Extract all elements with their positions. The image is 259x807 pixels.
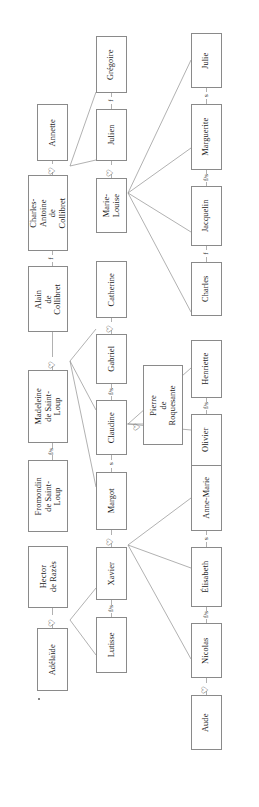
marriage-symbol-alain-madeleine: ♡ — [48, 355, 58, 369]
person-label: Charles — [202, 276, 212, 302]
person-label: Jacquelin — [202, 200, 212, 233]
person-label: Marie- Louise — [102, 194, 121, 217]
person-node-nicolas[interactable]: Nicolas — [191, 623, 222, 678]
person-label: Anne-Marie — [202, 477, 212, 519]
person-node-hector-de-razes[interactable]: Hector de Razès — [28, 546, 68, 608]
person-label: Gabriel — [107, 346, 117, 372]
person-label: Catherine — [107, 273, 117, 306]
person-label: Lutisse — [107, 633, 117, 658]
person-node-julien[interactable]: Julien — [96, 109, 127, 161]
person-node-margot[interactable]: Margot — [96, 472, 127, 530]
person-node-madeleine-de-saint-loup[interactable]: Madeleine de Saint-Loup — [28, 370, 68, 443]
marriage-symbol-margot-xavier: ♡ — [106, 532, 116, 546]
person-label: Alain de Collibret — [34, 280, 63, 318]
person-node-fromondin-de-saint-loup[interactable]: Fromondin de Saint-Loup — [28, 460, 68, 532]
person-label: Olivier — [202, 428, 212, 452]
person-label: Adélaïde — [48, 644, 58, 675]
sibling-label-jacquelin-charles: f — [203, 246, 212, 262]
person-label: Madeleine de Saint-Loup — [34, 388, 63, 426]
sibling-label-anne-marie-elisabeth: s — [203, 531, 212, 547]
person-label: Julie — [202, 52, 212, 68]
person-node-catherine[interactable]: Catherine — [96, 261, 127, 318]
person-node-anne-marie[interactable]: Anne-Marie — [191, 465, 222, 531]
sibling-label-xavier-lutisse: f/s — [108, 599, 117, 619]
person-label: Hector de Razès — [38, 562, 57, 593]
person-node-julie[interactable]: Julie — [191, 33, 222, 88]
sibling-label-gregoire-julien: f — [108, 93, 117, 109]
person-label: Annette — [48, 119, 58, 146]
person-label: Aude — [202, 713, 212, 732]
marriage-symbol-catherine-gabriel: ♡ — [106, 319, 116, 333]
decorative-dot — [38, 698, 40, 700]
family-tree-diagram: Annette ♡ Charles-Antoine de Collibret f… — [0, 0, 259, 807]
person-node-annette[interactable]: Annette — [37, 104, 68, 161]
sibling-label-henriette-olivier: f/s — [203, 396, 212, 416]
person-node-marguerite[interactable]: Marguerite — [191, 104, 222, 170]
person-node-marie-louise[interactable]: Marie- Louise — [96, 178, 127, 233]
marriage-symbol-nicolas-aude: ♡ — [201, 680, 211, 694]
person-node-xavier[interactable]: Xavier — [96, 547, 127, 600]
person-node-henriette[interactable]: Henriette — [191, 340, 222, 398]
person-node-elisabeth[interactable]: Élisabeth — [191, 547, 222, 607]
marriage-symbol-claudine-pierre: ♡ — [133, 417, 143, 431]
person-label: Margot — [107, 488, 117, 513]
person-node-olivier[interactable]: Olivier — [191, 414, 222, 466]
marriage-symbol-julien-marie-louise: ♡ — [106, 163, 116, 177]
sibling-label-elisabeth-nicolas: f/s — [203, 605, 212, 625]
person-node-adelaide[interactable]: Adélaïde — [37, 628, 68, 691]
person-node-charles[interactable]: Charles — [191, 262, 222, 316]
person-node-jacquelin[interactable]: Jacquelin — [191, 186, 222, 246]
marriage-symbol-hector-adelaide: ♡ — [48, 613, 58, 627]
person-label: Marguerite — [202, 118, 212, 156]
person-label: Julien — [107, 125, 117, 146]
sibling-label-charles-antoine-alain: f — [48, 251, 57, 267]
sibling-label-gabriel-claudine: f/s — [108, 382, 117, 402]
person-label: Charles-Antoine de Collibret — [29, 194, 67, 232]
person-node-gregoire[interactable]: Grégoire — [96, 36, 127, 93]
person-label: Grégoire — [107, 49, 117, 80]
person-label: Nicolas — [202, 637, 212, 663]
person-node-gabriel[interactable]: Gabriel — [96, 334, 127, 384]
person-label: Élisabeth — [202, 561, 212, 593]
person-label: Fromondin de Saint-Loup — [34, 477, 63, 515]
sibling-label-claudine-margot: s — [108, 456, 117, 472]
sibling-label-madeleine-fromondin: f/s — [48, 442, 57, 462]
person-node-alain-de-collibret[interactable]: Alain de Collibret — [28, 266, 68, 332]
person-node-pierre-de-roquesante[interactable]: Pierre de Roquesante — [143, 365, 183, 445]
person-label: Xavier — [107, 562, 117, 585]
sibling-label-julie-marguerite: s — [203, 88, 212, 104]
person-node-claudine[interactable]: Claudine — [96, 400, 127, 455]
sibling-label-marguerite-jacquelin: f/s — [203, 168, 212, 188]
person-node-charles-antoine-de-collibret[interactable]: Charles-Antoine de Collibret — [28, 175, 68, 251]
person-label: Pierre de Roquesante — [149, 385, 178, 425]
person-node-lutisse[interactable]: Lutisse — [96, 617, 127, 673]
marriage-symbol-annette-charles-antoine: ♡ — [48, 161, 58, 175]
person-label: Henriette — [202, 353, 212, 385]
person-node-aude[interactable]: Aude — [191, 695, 222, 750]
person-label: Claudine — [107, 412, 117, 443]
